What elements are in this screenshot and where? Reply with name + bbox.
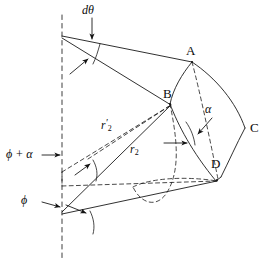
label-d-theta: dθ	[82, 4, 94, 16]
geometry-diagram	[0, 0, 268, 268]
arc-a-to-b	[170, 62, 192, 104]
vertex-dot-b	[169, 103, 171, 105]
label-phi-plus-alpha: ϕ + α	[6, 148, 33, 160]
angle-arc-phi-plus-alpha	[93, 160, 97, 181]
label-r2-prime-subscript: 2	[108, 124, 112, 133]
generator-apex-top-to-a	[62, 36, 192, 62]
hidden-generator-left-lower	[62, 181, 217, 186]
hidden-arc-lower-cap	[133, 178, 217, 187]
label-alpha: α	[205, 103, 211, 115]
pointer-arrow-phi-wedge	[66, 205, 86, 213]
hidden-arc-b-lower-loop	[133, 104, 176, 202]
label-point-b: B	[163, 87, 172, 100]
pointer-arrow-phi-label	[42, 202, 60, 207]
hidden-generator-left-upper	[62, 105, 171, 172]
label-r2: r2	[130, 144, 139, 157]
arc-c-to-d	[221, 128, 245, 177]
generator-apex-bottom-to-b	[62, 105, 171, 212]
pointer-arrow-d-theta-wedge	[70, 59, 88, 74]
pointer-arrow-phi-plus-alpha-wedge	[75, 164, 90, 175]
label-point-d: D	[211, 157, 220, 170]
pointer-arrow-alpha	[198, 118, 212, 134]
label-point-a: A	[186, 44, 195, 57]
figure-container: dθ ϕ + α ϕ α r′2 r2 A B C D	[0, 0, 268, 268]
label-r2-subscript: 2	[134, 148, 138, 157]
vertex-dot-a	[191, 61, 193, 63]
label-r2-prime: r′2	[101, 118, 112, 133]
angle-arc-phi	[90, 211, 94, 234]
vertex-dot-d	[216, 179, 218, 181]
arc-a-to-c	[192, 62, 245, 128]
label-phi: ϕ	[21, 194, 27, 206]
label-point-c: C	[250, 121, 259, 134]
generator-apex-bottom-to-lower-right	[62, 181, 217, 214]
generator-apex-top-to-b	[62, 38, 171, 105]
angle-arc-alpha	[186, 122, 195, 145]
